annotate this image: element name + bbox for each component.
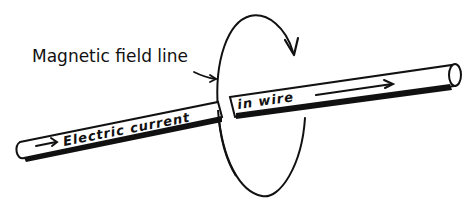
field-pointer-arrow-icon bbox=[194, 72, 216, 82]
wire bbox=[17, 64, 461, 162]
label-magnetic-field-line: Magnetic field line bbox=[32, 46, 188, 66]
wire-end-cap bbox=[449, 64, 461, 86]
magnetic-field-diagram: Electric current in wire Magnetic field … bbox=[0, 0, 476, 205]
